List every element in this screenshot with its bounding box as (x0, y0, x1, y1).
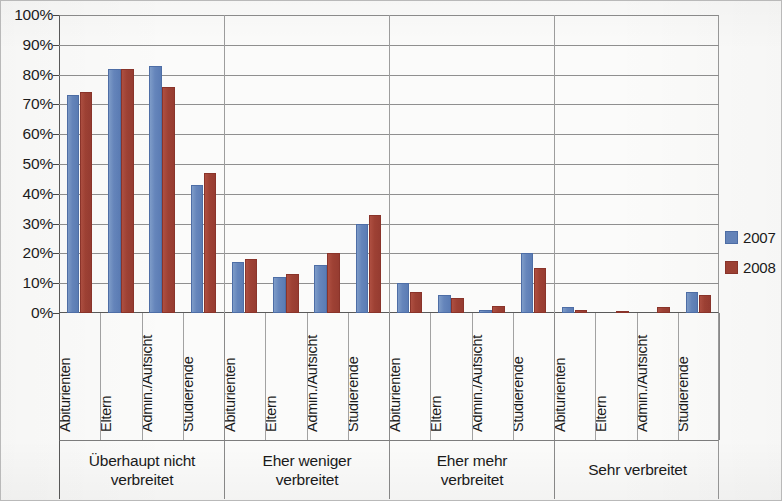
y-tick-label: 80% (23, 66, 53, 84)
bar-2008-6 (327, 253, 340, 313)
category-label: Studierende (349, 357, 362, 432)
category-label: Admin./Aufsicht (308, 335, 321, 432)
category-cell: Abiturienten (60, 313, 101, 440)
bar-2008-2 (162, 87, 175, 313)
group-cell: Eher mehrverbreitet (390, 441, 555, 499)
category-label: Abiturienten (225, 358, 238, 432)
category-label: Abiturienten (555, 358, 568, 432)
bar-2008-11 (534, 268, 547, 313)
category-cell: Abiturienten (390, 313, 431, 440)
bar-2008-3 (204, 173, 217, 313)
group-cell: Eher wenigerverbreitet (225, 441, 390, 499)
category-label: Studierende (679, 357, 692, 432)
y-tick-label: 0% (31, 304, 53, 322)
y-tick-label: 60% (23, 125, 53, 143)
bar-2008-10 (492, 306, 505, 313)
category-cell: Admin./Aufsicht (143, 313, 184, 440)
bar-2007-4 (232, 262, 245, 313)
y-tick-label: 70% (23, 95, 53, 113)
group-label-line1: Überhaupt nicht (89, 451, 195, 470)
bar-2008-7 (369, 215, 382, 313)
group-label-line2: verbreitet (89, 470, 195, 489)
category-cell: Eltern (266, 313, 307, 440)
bar-2008-9 (451, 298, 464, 313)
category-cell: Admin./Aufsicht (473, 313, 514, 440)
category-label: Eltern (431, 396, 444, 432)
legend: 20072008 (725, 229, 782, 289)
category-cell: Studierende (349, 313, 390, 440)
legend-label: 2008 (743, 259, 776, 276)
bar-2007-9 (438, 295, 451, 313)
category-cell: Studierende (679, 313, 720, 440)
bar-2007-1 (108, 69, 121, 313)
bar-2008-8 (410, 292, 423, 313)
group-label: Überhaupt nichtverbreitet (89, 451, 195, 490)
category-label: Abiturienten (390, 358, 403, 432)
legend-swatch-icon (725, 231, 738, 244)
legend-swatch-icon (725, 261, 738, 274)
bar-2008-15 (699, 295, 712, 313)
category-cell: Eltern (431, 313, 472, 440)
category-cell: Abiturienten (225, 313, 266, 440)
legend-label: 2007 (743, 229, 776, 246)
category-label: Admin./Aufsicht (473, 335, 486, 432)
y-axis: 100%90%80%70%60%50%40%30%20%10%0% (1, 1, 59, 331)
category-label: Studierende (514, 357, 527, 432)
category-label: Eltern (596, 396, 609, 432)
category-label: Abiturienten (60, 358, 73, 432)
group-label: Eher wenigerverbreitet (263, 451, 352, 490)
plot-area (59, 15, 719, 313)
group-label-line1: Eher mehr (437, 451, 508, 470)
category-cell: Eltern (101, 313, 142, 440)
group-label: Sehr verbreitet (588, 460, 687, 479)
bar-2007-0 (67, 95, 80, 313)
bar-2007-7 (356, 224, 369, 313)
group-axis: Überhaupt nichtverbreitetEher wenigerver… (59, 441, 719, 499)
bar-2008-5 (286, 274, 299, 313)
y-tick-label: 100% (14, 6, 53, 24)
category-label: Admin./Aufsicht (638, 335, 651, 432)
group-cell: Sehr verbreitet (555, 441, 720, 499)
y-tick-label: 50% (23, 155, 53, 173)
group-cell: Überhaupt nichtverbreitet (60, 441, 225, 499)
y-tick-label: 90% (23, 36, 53, 54)
bar-2007-11 (521, 253, 534, 313)
y-tick-label: 20% (23, 244, 53, 262)
bar-2007-6 (314, 265, 327, 313)
bar-2007-2 (149, 66, 162, 313)
group-label-line2: verbreitet (437, 470, 508, 489)
bars-layer (59, 15, 719, 313)
chart-page: 100%90%80%70%60%50%40%30%20%10%0% Abitur… (0, 0, 782, 501)
category-cell: Admin./Aufsicht (308, 313, 349, 440)
category-cell: Eltern (596, 313, 637, 440)
y-tick-label: 10% (23, 274, 53, 292)
bar-2008-4 (245, 259, 258, 313)
group-label-line1: Sehr verbreitet (588, 460, 687, 479)
category-cell: Studierende (514, 313, 555, 440)
category-cell: Admin./Aufsicht (638, 313, 679, 440)
legend-item: 2008 (725, 259, 782, 276)
bar-2007-8 (397, 283, 410, 313)
group-label-line1: Eher weniger (263, 451, 352, 470)
category-label: Eltern (266, 396, 279, 432)
bar-2007-3 (191, 185, 204, 313)
y-tick-label: 30% (23, 215, 53, 233)
category-label: Studierende (184, 357, 197, 432)
category-label: Eltern (101, 396, 114, 432)
category-cell: Studierende (184, 313, 225, 440)
group-label: Eher mehrverbreitet (437, 451, 508, 490)
bar-2008-0 (80, 92, 93, 313)
bar-2007-15 (686, 292, 699, 313)
bar-2007-5 (273, 277, 286, 313)
group-label-line2: verbreitet (263, 470, 352, 489)
category-axis: AbiturientenElternAdmin./AufsichtStudier… (59, 313, 719, 441)
category-label: Admin./Aufsicht (143, 335, 156, 432)
bar-2008-1 (121, 69, 134, 313)
legend-item: 2007 (725, 229, 782, 246)
category-cell: Abiturienten (555, 313, 596, 440)
y-tick-label: 40% (23, 185, 53, 203)
